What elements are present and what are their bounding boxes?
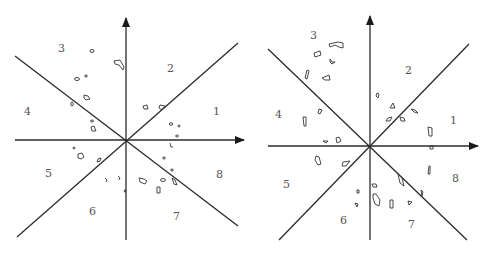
sector-label-7: 7 <box>173 210 180 223</box>
sector-label-5: 5 <box>283 178 290 191</box>
left-sector-diagram: 1 2 3 4 5 6 7 8 <box>15 18 244 240</box>
diagonal-line-b <box>279 44 469 240</box>
sector-label-2: 2 <box>405 64 412 77</box>
sector-label-6: 6 <box>89 205 96 218</box>
sector-label-8: 8 <box>452 172 459 185</box>
sector-label-1: 1 <box>213 105 220 118</box>
sector-label-3: 3 <box>310 29 317 42</box>
sector-label-5: 5 <box>45 167 52 180</box>
shape-outlines <box>303 42 433 208</box>
sector-label-8: 8 <box>216 168 223 181</box>
sector-label-4: 4 <box>24 105 31 118</box>
sector-diagrams: 1 2 3 4 5 6 7 8 <box>0 0 495 253</box>
sector-label-4: 4 <box>275 108 282 121</box>
sector-labels: 1 2 3 4 5 6 7 8 <box>275 29 459 231</box>
sector-label-1: 1 <box>450 114 457 127</box>
sector-label-3: 3 <box>58 42 65 55</box>
right-sector-diagram: 1 2 3 4 5 6 7 8 <box>268 16 478 240</box>
sector-label-7: 7 <box>408 218 415 231</box>
sector-label-2: 2 <box>167 62 174 75</box>
sector-label-6: 6 <box>340 214 347 227</box>
